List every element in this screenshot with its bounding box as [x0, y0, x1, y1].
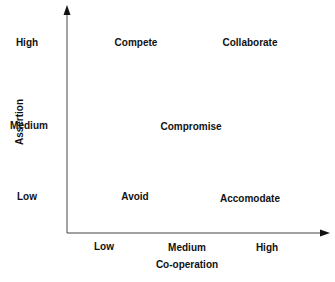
y-tick-low: Low: [17, 192, 37, 202]
y-tick-high: High: [16, 38, 38, 48]
style-avoid: Avoid: [121, 192, 148, 202]
x-axis-arrow-icon: [320, 230, 330, 237]
axes: [0, 0, 335, 282]
x-tick-high: High: [256, 243, 278, 253]
y-axis-arrow-icon: [64, 5, 71, 15]
x-axis-title: Co-operation: [156, 260, 218, 270]
x-tick-medium: Medium: [168, 243, 206, 253]
style-collaborate: Collaborate: [222, 38, 277, 48]
x-tick-low: Low: [94, 242, 114, 252]
y-axis-title: Assertion: [15, 99, 25, 145]
conflict-styles-diagram: High Medium Low Assertion Low Medium Hig…: [0, 0, 335, 282]
style-compete: Compete: [115, 38, 158, 48]
style-accomodate: Accomodate: [220, 194, 280, 204]
style-compromise: Compromise: [160, 122, 221, 132]
